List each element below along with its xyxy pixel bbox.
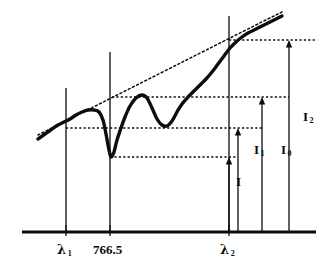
intensity-I0-label: I0 (281, 143, 291, 156)
figure-canvas (0, 0, 336, 268)
arrow-I0-head (259, 97, 265, 105)
lambda-2-label: λ2 (220, 243, 234, 256)
arrow-I2-head (286, 40, 292, 48)
intensity-I-label: I (236, 175, 242, 188)
measured-spectrum (38, 16, 282, 157)
wavelength-766-5-label: 766.5 (93, 243, 122, 256)
arrow-I-head (226, 157, 232, 165)
arrow-I1-head (235, 128, 241, 136)
lambda-1-label: λ1 (57, 243, 71, 256)
intensity-I1-label: I1 (254, 143, 264, 156)
intensity-I2-label: I2 (303, 110, 313, 123)
absorption-spectrum-figure: λ1 766.5 λ2 I I1 I0 I2 (0, 0, 336, 268)
